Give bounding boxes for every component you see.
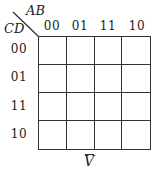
- kmap-cell: [122, 93, 150, 121]
- function-label: V: [84, 153, 94, 169]
- row-code-1: 01: [7, 70, 31, 84]
- kmap-cell: [122, 65, 150, 93]
- kmap-cell: [122, 37, 150, 65]
- column-code-3: 10: [123, 19, 151, 33]
- overline: [85, 154, 94, 155]
- kmap-cell: [67, 121, 95, 149]
- column-code-0: 00: [38, 19, 66, 33]
- kmap-cell: [95, 93, 123, 121]
- kmap-cell: [39, 65, 67, 93]
- kmap-cell: [39, 93, 67, 121]
- column-code-1: 01: [66, 19, 94, 33]
- row-code-2: 11: [7, 99, 31, 113]
- kmap-cell: [122, 121, 150, 149]
- row-code-3: 10: [7, 127, 31, 141]
- kmap-cell: [95, 37, 123, 65]
- function-name: V: [84, 153, 94, 169]
- kmap-cell: [39, 121, 67, 149]
- row-variable-label: CD: [4, 21, 24, 36]
- kmap-cell: [95, 121, 123, 149]
- row-code-0: 00: [7, 42, 31, 56]
- column-variable-label: AB: [26, 3, 45, 18]
- kmap-cell: [95, 65, 123, 93]
- kmap-cell: [67, 65, 95, 93]
- kmap-cell: [39, 37, 67, 65]
- kmap-cell: [67, 93, 95, 121]
- karnaugh-map-grid: [38, 36, 151, 150]
- kmap-cell: [67, 37, 95, 65]
- column-code-2: 11: [94, 19, 122, 33]
